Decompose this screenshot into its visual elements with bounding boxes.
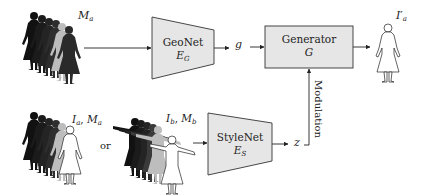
output-figure (376, 24, 400, 82)
label-ia-ma: Ia, Ma (72, 114, 102, 127)
generator-title: Generator (265, 33, 353, 46)
geonet-title: GeoNet (152, 36, 214, 49)
stylenet-symbol: ES (208, 144, 272, 159)
generator-label: Generator G (265, 33, 353, 59)
geonet-label: GeoNet EG (152, 36, 214, 64)
modulation-arrow (304, 69, 309, 145)
stylenet-title: StyleNet (208, 131, 272, 144)
architecture-diagram (0, 0, 421, 196)
image-mask-sequence-b (113, 118, 195, 194)
label-output: I′a (396, 10, 407, 23)
geometry-code-g: g (235, 39, 242, 50)
modulation-label: Modulation (313, 80, 324, 138)
label-ma-top: Ma (78, 10, 93, 23)
stylenet-label: StyleNet ES (208, 131, 272, 159)
mask-sequence-a-top (22, 12, 81, 84)
label-ib-mb: Ib, Mb (166, 113, 197, 126)
generator-symbol: G (265, 46, 353, 59)
geonet-symbol: EG (152, 49, 214, 64)
style-code-z: z (294, 137, 300, 148)
or-text: or (100, 141, 111, 151)
